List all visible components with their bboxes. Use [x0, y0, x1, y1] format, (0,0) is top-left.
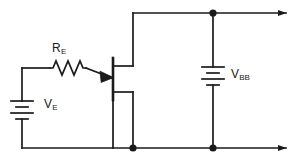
label-re-subscript: E: [61, 47, 66, 56]
circuit-diagram: RE VE VBB: [0, 0, 296, 164]
resistor-re-zigzag: [50, 61, 86, 75]
label-resistor-re: RE: [52, 42, 66, 54]
label-vbb-subscript: BB: [239, 73, 250, 82]
label-vbb-symbol: V: [231, 67, 239, 81]
junction-dot-bottom-collector: [129, 144, 136, 151]
label-ve-symbol: V: [44, 97, 52, 111]
label-re-symbol: R: [52, 41, 61, 55]
label-source-ve: VE: [44, 98, 58, 110]
junction-dot-bottom-right: [209, 144, 216, 151]
label-source-vbb: VBB: [231, 68, 250, 80]
circuit-schematic-svg: [0, 0, 296, 164]
junction-dot-top-right: [209, 9, 216, 16]
label-ve-subscript: E: [52, 103, 57, 112]
transistor-emitter-arrow-icon: [100, 71, 114, 82]
